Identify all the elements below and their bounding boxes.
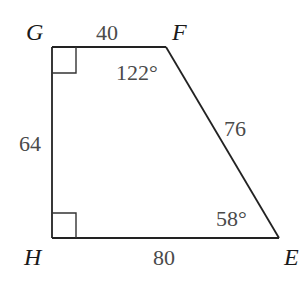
- side-length-FE: 76: [224, 116, 246, 141]
- side-length-GH: 64: [19, 131, 41, 156]
- angle-label-F: 122°: [116, 60, 158, 85]
- vertex-label-F: F: [171, 19, 187, 45]
- right-angle-marker-G: [52, 47, 76, 73]
- angle-label-E: 58°: [216, 206, 247, 231]
- right-angle-marker-H: [52, 213, 76, 238]
- trapezoid-diagram: G F H E 40 76 80 64 122° 58°: [0, 0, 308, 283]
- side-length-HE: 80: [153, 245, 175, 270]
- vertex-label-G: G: [26, 19, 43, 45]
- vertex-label-H: H: [23, 244, 43, 270]
- vertex-label-E: E: [283, 244, 299, 270]
- side-length-GF: 40: [96, 20, 118, 45]
